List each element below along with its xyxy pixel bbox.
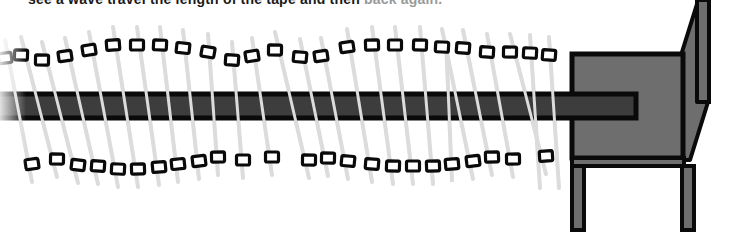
weight-icon <box>268 45 281 55</box>
weight-icon <box>131 40 144 50</box>
weight-icon <box>131 164 144 174</box>
weight-icon <box>341 155 355 166</box>
weight-icon <box>192 155 206 167</box>
weight-icon <box>266 152 279 162</box>
weight-icon <box>340 41 354 53</box>
weight-icon <box>82 44 96 56</box>
left-fade <box>0 30 26 200</box>
weight-icon <box>485 152 498 162</box>
weight-icon <box>106 40 120 51</box>
weight-icon <box>153 40 166 51</box>
weight-icon <box>426 161 439 171</box>
weight-icon <box>466 155 480 167</box>
weight-icon <box>389 40 402 50</box>
weight-icon <box>321 153 334 163</box>
weight-icon <box>176 42 190 53</box>
tape-icon <box>0 94 636 118</box>
weight-icon <box>50 154 63 164</box>
weight-icon <box>58 50 72 62</box>
weight-icon <box>503 47 516 57</box>
weight-icon <box>211 152 224 162</box>
weight-icon <box>302 155 315 165</box>
weight-icon <box>152 161 166 172</box>
weight-icon <box>523 48 537 59</box>
weight-icon <box>456 43 470 54</box>
weight-icon <box>542 50 556 61</box>
weight-icon <box>25 158 39 170</box>
weight-icon <box>171 158 185 169</box>
weight-icon <box>365 40 378 50</box>
weight-icon <box>314 50 328 62</box>
weight-icon <box>237 155 250 165</box>
weight-icon <box>480 47 494 58</box>
weight-icon <box>91 161 105 172</box>
weight-icon <box>435 42 448 53</box>
weight-icon <box>201 46 216 58</box>
weight-icon <box>35 55 48 65</box>
wave-machine-illustration <box>0 0 731 249</box>
weight-icon <box>71 159 85 170</box>
weight-icon <box>506 154 519 164</box>
weight-icon <box>225 55 239 66</box>
weight-icon <box>413 40 426 50</box>
weight-icon <box>539 151 553 162</box>
weight-icon <box>293 51 307 62</box>
weight-icon <box>111 164 125 175</box>
weight-icon <box>407 161 420 171</box>
weight-icon <box>245 50 259 62</box>
weight-icon <box>386 161 399 171</box>
weight-icon <box>365 159 379 170</box>
weight-icon <box>445 158 459 169</box>
